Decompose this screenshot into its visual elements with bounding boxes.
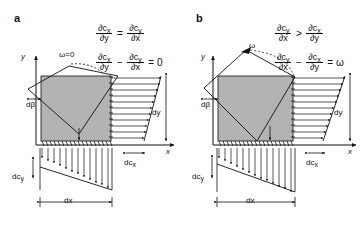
figure-root: a ∂cx ∂y = ∂cy ∂x ∂cx ∂y − ∂cy ∂x = [0, 0, 364, 232]
velocity-profile-y-a [42, 148, 108, 188]
velocity-envelope-y-a [40, 167, 112, 190]
panel-b-graphics [182, 0, 364, 232]
panel-a: a ∂cx ∂y = ∂cy ∂x ∂cx ∂y − ∂cy ∂x = [0, 0, 182, 232]
velocity-profile-x-b [293, 78, 345, 138]
velocity-profile-y-b [219, 148, 291, 192]
velocity-envelope-x-b [323, 76, 345, 141]
fluid-element-b [218, 76, 293, 141]
velocity-envelope-x-a [144, 76, 161, 141]
omega-arc-b [250, 50, 294, 76]
panel-a-graphics [0, 0, 182, 232]
velocity-envelope-y-b [217, 164, 295, 192]
velocity-profile-x-a [111, 78, 161, 138]
panel-b: b ∂cy ∂x > ∂cx ∂y ∂cy ∂x − ∂cx ∂y = [182, 0, 364, 232]
